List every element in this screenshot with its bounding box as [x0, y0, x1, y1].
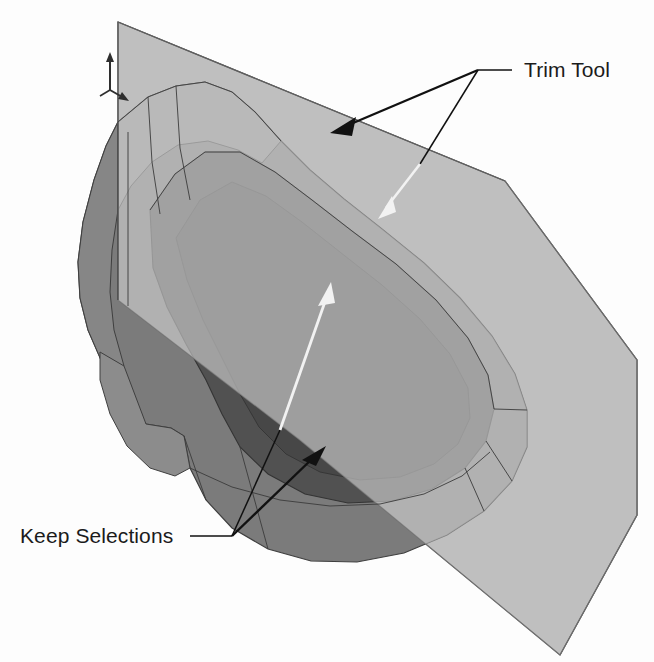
trim-tool-label: Trim Tool [524, 58, 610, 82]
figure-canvas: Trim Tool Keep Selections [0, 0, 654, 662]
cad-3d-scene [0, 0, 654, 662]
trim-tool-arrow-plane [330, 70, 478, 136]
keep-selections-label: Keep Selections [20, 524, 173, 548]
